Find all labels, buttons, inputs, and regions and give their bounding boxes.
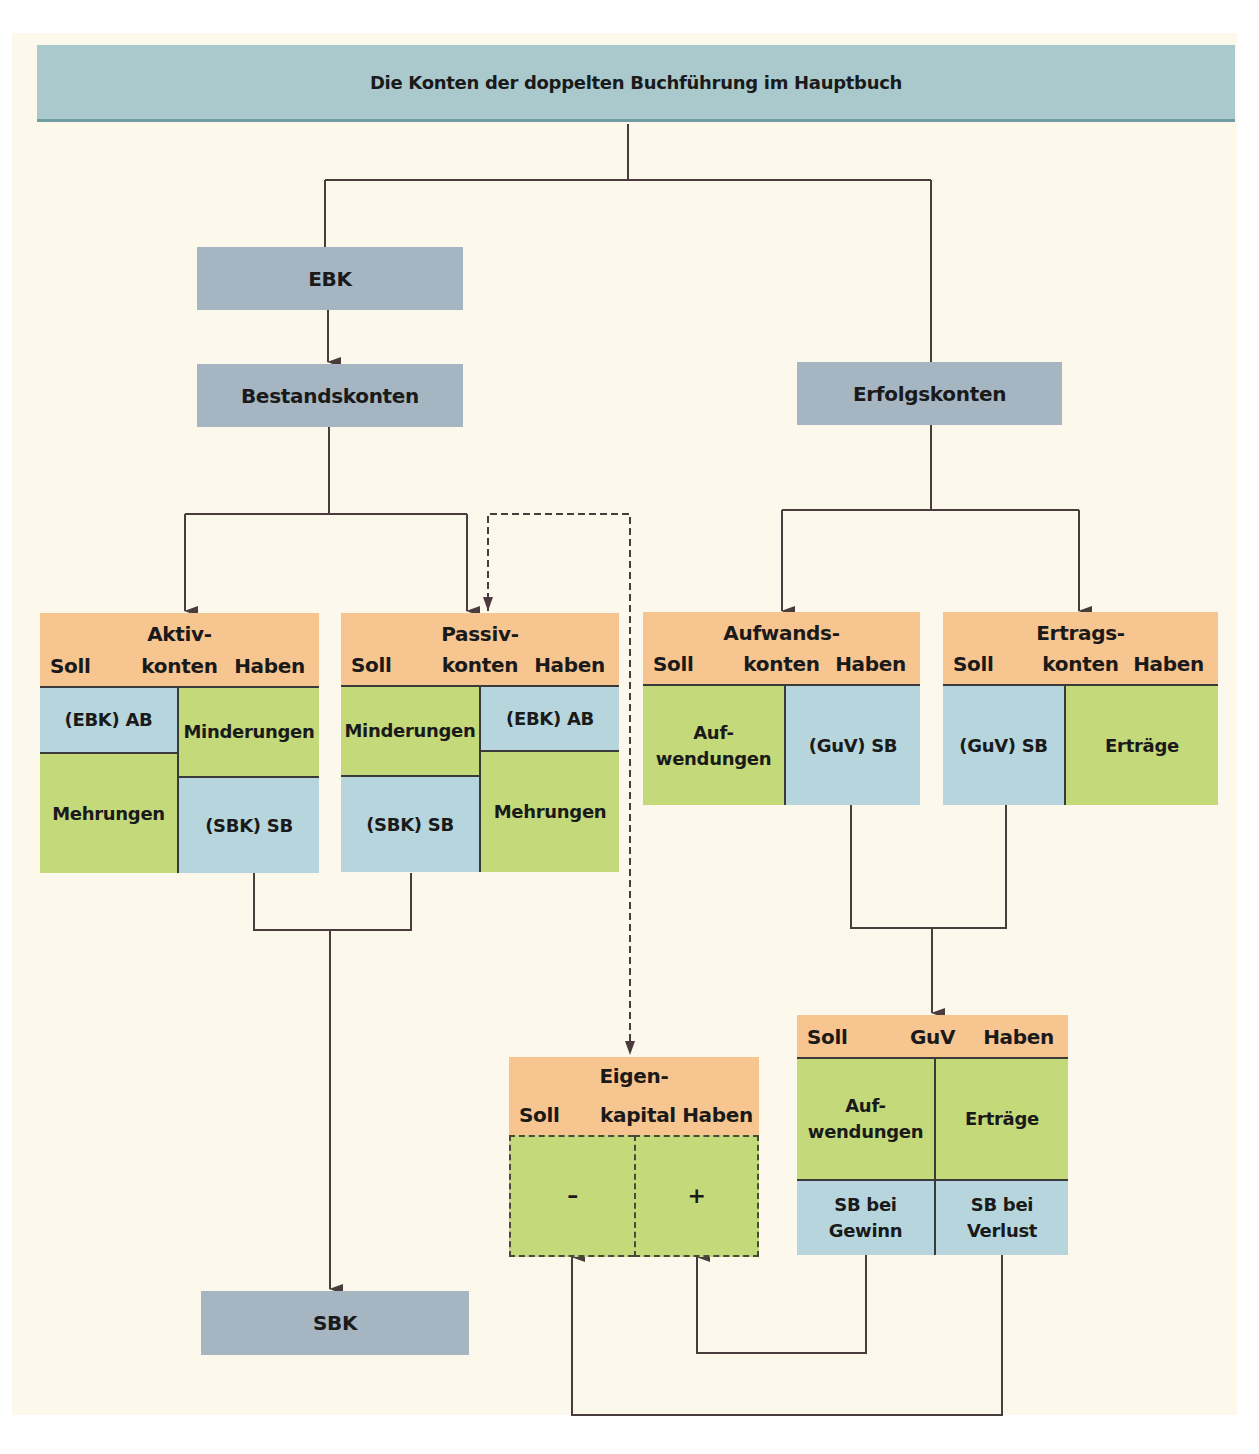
account-eigenkapital: Eigen- kapital Soll Haben – + bbox=[509, 1057, 759, 1257]
account-header: Ertrags- konten Soll Haben bbox=[943, 612, 1218, 686]
cell-mehrungen: Mehrungen bbox=[40, 752, 177, 873]
account-header: Aufwands- konten Soll Haben bbox=[643, 612, 920, 686]
haben-label: Haben bbox=[1133, 652, 1204, 676]
haben-label: Haben bbox=[983, 1025, 1054, 1049]
cell-aufwendungen: Auf- wendungen bbox=[643, 686, 784, 805]
cell-plus: + bbox=[634, 1135, 759, 1257]
cell-sb: (GuV) SB bbox=[943, 686, 1064, 805]
cell-ertraege: Erträge bbox=[1064, 686, 1218, 805]
cell-sb: (SBK) SB bbox=[177, 776, 319, 873]
cell-minus: – bbox=[509, 1135, 634, 1257]
diagram-title: Die Konten der doppelten Buchführung im … bbox=[37, 45, 1235, 122]
account-header: Eigen- kapital Soll Haben bbox=[509, 1057, 759, 1135]
soll-label: Soll bbox=[519, 1103, 560, 1127]
cell-sb: (GuV) SB bbox=[784, 686, 920, 805]
cell-text-line1: Auf- bbox=[693, 720, 734, 746]
account-name-line1: Eigen- bbox=[509, 1063, 759, 1089]
account-name-line1: Aktiv- bbox=[40, 621, 319, 647]
cell-text-line2: Gewinn bbox=[829, 1218, 903, 1244]
node-ebk: EBK bbox=[197, 247, 463, 310]
node-sbk: SBK bbox=[201, 1291, 469, 1355]
haben-label: Haben bbox=[835, 652, 906, 676]
cell-text-line2: Verlust bbox=[967, 1218, 1037, 1244]
cell-sb-gewinn: SB bei Gewinn bbox=[797, 1179, 934, 1255]
cell-ab: (EBK) AB bbox=[479, 687, 619, 750]
account-header: Soll GuV Haben bbox=[797, 1015, 1068, 1059]
node-erfolgskonten: Erfolgskonten bbox=[797, 362, 1062, 425]
soll-label: Soll bbox=[653, 652, 694, 676]
account-passivkonten: Passiv- konten Soll Haben Minderungen (S… bbox=[341, 613, 619, 872]
soll-label: Soll bbox=[351, 653, 392, 677]
account-name-line1: Aufwands- bbox=[643, 620, 920, 646]
account-guv: Soll GuV Haben Auf- wendungen Erträge SB… bbox=[797, 1015, 1068, 1255]
cell-ertraege: Erträge bbox=[934, 1059, 1068, 1179]
haben-label: Haben bbox=[682, 1103, 753, 1127]
soll-label: Soll bbox=[50, 654, 91, 678]
account-ertragskonten: Ertrags- konten Soll Haben (GuV) SB Ertr… bbox=[943, 612, 1218, 805]
haben-label: Haben bbox=[234, 654, 305, 678]
soll-label: Soll bbox=[953, 652, 994, 676]
account-header: Passiv- konten Soll Haben bbox=[341, 613, 619, 687]
account-header: Aktiv- konten Soll Haben bbox=[40, 613, 319, 688]
account-aktivkonten: Aktiv- konten Soll Haben (EBK) AB Mehrun… bbox=[40, 613, 319, 873]
haben-label: Haben bbox=[534, 653, 605, 677]
cell-mehrungen: Mehrungen bbox=[479, 750, 619, 872]
cell-ab: (EBK) AB bbox=[40, 688, 177, 752]
cell-text-line2: wendungen bbox=[656, 746, 771, 772]
account-aufwandskonten: Aufwands- konten Soll Haben Auf- wendung… bbox=[643, 612, 920, 805]
cell-text-line1: Auf- bbox=[845, 1093, 886, 1119]
cell-text-line1: SB bei bbox=[971, 1192, 1033, 1218]
account-name-line1: Passiv- bbox=[341, 621, 619, 647]
cell-text-line1: SB bei bbox=[834, 1192, 896, 1218]
cell-aufwendungen: Auf- wendungen bbox=[797, 1059, 934, 1179]
cell-minderungen: Minderungen bbox=[341, 687, 479, 775]
cell-text-line2: wendungen bbox=[808, 1119, 923, 1145]
cell-sb-verlust: SB bei Verlust bbox=[934, 1179, 1068, 1255]
cell-minderungen: Minderungen bbox=[177, 688, 319, 776]
node-bestandskonten: Bestandskonten bbox=[197, 364, 463, 427]
account-name-line1: Ertrags- bbox=[943, 620, 1218, 646]
cell-sb: (SBK) SB bbox=[341, 775, 479, 872]
